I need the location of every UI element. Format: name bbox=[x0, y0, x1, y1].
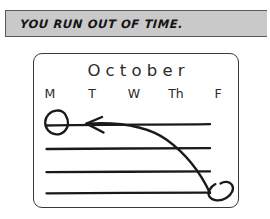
week-line-2 bbox=[47, 148, 211, 149]
week-line-3 bbox=[47, 171, 211, 172]
week-line-4 bbox=[47, 193, 211, 194]
caption-text: YOU RUN OUT OF TIME. bbox=[20, 17, 184, 31]
circled-date-destination bbox=[45, 111, 68, 135]
caption-banner: YOU RUN OUT OF TIME. bbox=[5, 10, 267, 37]
weekday-thursday: Th bbox=[168, 86, 184, 101]
arrow-head-upper bbox=[87, 117, 103, 124]
calendar-week-lines bbox=[47, 124, 211, 193]
calendar-card: October M T W Th F bbox=[33, 53, 239, 208]
circled-date-origin bbox=[209, 182, 233, 201]
weekday-friday: F bbox=[210, 86, 226, 101]
deadline-move-arrow bbox=[87, 117, 211, 193]
weekday-wednesday: W bbox=[126, 86, 142, 101]
calendar-weekday-header: M T W Th F bbox=[42, 86, 226, 101]
weekday-monday: M bbox=[42, 86, 58, 101]
arrow-shaft bbox=[88, 123, 210, 193]
calendar-month-title: October bbox=[34, 61, 238, 80]
week-line-1 bbox=[47, 124, 211, 125]
arrow-head-lower bbox=[87, 124, 104, 133]
weekday-tuesday: T bbox=[84, 86, 100, 101]
